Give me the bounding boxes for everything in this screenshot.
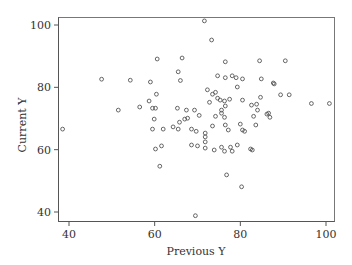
data-point <box>171 125 175 129</box>
data-point <box>212 148 216 152</box>
data-point <box>287 93 291 97</box>
data-point <box>328 102 332 106</box>
data-point <box>180 56 184 60</box>
data-point <box>194 214 198 218</box>
x-tick-label: 40 <box>62 228 76 241</box>
data-point <box>214 90 218 94</box>
data-point <box>206 88 210 92</box>
data-point <box>235 143 239 147</box>
data-point <box>234 76 238 80</box>
data-point <box>252 114 256 118</box>
data-point <box>238 122 242 126</box>
data-point <box>230 74 234 78</box>
data-point <box>203 146 207 150</box>
data-point <box>160 144 164 148</box>
data-point <box>61 127 65 131</box>
data-point <box>223 76 227 80</box>
data-point <box>310 102 314 106</box>
data-point <box>193 108 197 112</box>
x-axis-ticks: 406080100 <box>62 222 337 242</box>
data-point <box>223 99 227 103</box>
data-point <box>214 114 218 118</box>
data-point <box>190 143 194 147</box>
data-point <box>223 115 227 119</box>
data-point <box>208 100 212 104</box>
y-tick-label: 40 <box>37 206 51 219</box>
plot-frame <box>59 18 335 222</box>
data-point <box>223 123 227 127</box>
data-point <box>196 144 200 148</box>
data-point <box>235 85 239 89</box>
data-point <box>272 82 276 86</box>
data-point <box>241 98 245 102</box>
data-point <box>176 70 180 74</box>
data-point <box>283 59 287 63</box>
data-point <box>185 108 189 112</box>
y-axis-ticks: 406080100 <box>30 19 59 219</box>
data-point <box>226 128 230 132</box>
data-point <box>147 99 151 103</box>
x-tick-label: 100 <box>316 228 337 241</box>
data-point <box>178 120 182 124</box>
data-point <box>155 92 159 96</box>
data-point <box>176 127 180 131</box>
data-point <box>100 77 104 81</box>
x-axis-title: Previous Y <box>166 245 226 258</box>
data-point <box>240 185 244 189</box>
data-point <box>241 77 245 81</box>
data-point <box>116 108 120 112</box>
data-point <box>255 102 259 106</box>
data-point <box>279 93 283 97</box>
x-tick-label: 80 <box>233 228 247 241</box>
y-tick-label: 60 <box>37 144 51 157</box>
data-point <box>161 127 165 131</box>
data-points <box>61 19 332 218</box>
data-point <box>158 164 162 168</box>
data-point <box>256 108 260 112</box>
data-point <box>176 106 180 110</box>
data-point <box>254 123 258 127</box>
data-point <box>258 59 262 63</box>
data-point <box>216 74 220 78</box>
data-point <box>197 114 201 118</box>
data-point <box>151 127 155 131</box>
data-point <box>190 127 194 131</box>
data-point <box>228 97 232 101</box>
data-point <box>223 104 227 108</box>
data-point <box>230 149 234 153</box>
data-point <box>268 115 272 119</box>
y-tick-label: 100 <box>30 19 51 32</box>
data-point <box>179 79 183 83</box>
data-point <box>152 117 156 121</box>
data-point <box>194 129 198 133</box>
data-point <box>259 95 263 99</box>
data-point <box>128 78 132 82</box>
data-point <box>223 60 227 64</box>
data-point <box>203 135 207 139</box>
data-point <box>225 173 229 177</box>
data-point <box>229 145 233 149</box>
data-point <box>203 140 207 144</box>
data-point <box>220 145 224 149</box>
data-point <box>149 80 153 84</box>
data-point <box>259 77 263 81</box>
data-point <box>203 131 207 135</box>
data-point <box>155 57 159 61</box>
data-point <box>250 103 254 107</box>
y-tick-label: 80 <box>37 81 51 94</box>
x-tick-label: 60 <box>148 228 162 241</box>
data-point <box>154 147 158 151</box>
data-point <box>210 38 214 42</box>
data-point <box>138 105 142 109</box>
scatter-chart: 406080100 406080100 Previous Y Current Y <box>0 0 352 265</box>
y-axis-title: Current Y <box>16 97 29 153</box>
data-point <box>211 124 215 128</box>
data-point <box>223 149 227 153</box>
data-point <box>203 19 207 23</box>
